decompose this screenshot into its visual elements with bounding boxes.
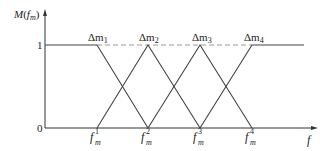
svg-text:4: 4: [250, 127, 254, 136]
peak-label-1: Δm1: [88, 31, 108, 45]
svg-text:Δm3: Δm3: [192, 31, 212, 45]
svg-text:1: 1: [95, 127, 99, 136]
x-tick-f2: f 2 m: [141, 127, 152, 147]
mf-4: [200, 45, 304, 128]
x-tick-f4: f 4 m: [245, 127, 256, 147]
svg-text:Δm4: Δm4: [244, 31, 264, 45]
membership-diagram: M(fm) 1 0 Δm1 Δm2 Δm3 Δm4 f 1 m f 2 m f …: [0, 0, 332, 151]
mf-1: [45, 45, 148, 128]
svg-text:Δm2: Δm2: [139, 31, 159, 45]
svg-text:2: 2: [146, 127, 150, 136]
y-tick-1: 1: [37, 39, 43, 51]
diagram-canvas: M(fm) 1 0 Δm1 Δm2 Δm3 Δm4 f 1 m f 2 m f …: [0, 0, 332, 151]
svg-text:m: m: [146, 138, 152, 147]
mf-3: [148, 45, 252, 128]
y-axis-label: M(fm): [13, 8, 40, 22]
peak-label-2: Δm2: [139, 31, 159, 45]
svg-text:m: m: [95, 138, 101, 147]
svg-text:Δm1: Δm1: [88, 31, 108, 45]
svg-text:m: m: [250, 138, 256, 147]
mf-2: [97, 45, 200, 128]
x-axis-arrow-icon: [311, 126, 318, 130]
x-axis-label: f: [307, 133, 312, 147]
y-axis-arrow-icon: [43, 9, 47, 16]
x-tick-f3: f 3 m: [193, 127, 204, 147]
svg-text:3: 3: [198, 127, 202, 136]
peak-label-4: Δm4: [244, 31, 264, 45]
svg-text:m: m: [198, 138, 204, 147]
y-tick-0: 0: [37, 122, 43, 134]
peak-label-3: Δm3: [192, 31, 212, 45]
x-tick-f1: f 1 m: [90, 127, 101, 147]
